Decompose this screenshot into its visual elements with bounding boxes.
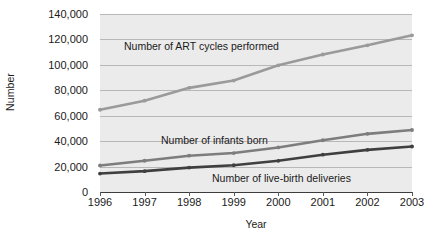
- y-axis-tick-label: 100,000: [48, 59, 88, 71]
- data-point: [276, 146, 280, 150]
- data-point: [410, 145, 414, 149]
- data-point: [143, 99, 147, 103]
- data-point: [98, 172, 102, 176]
- series-annotation-infants-born: Number of infants born: [161, 134, 268, 146]
- x-axis-tick-labels: 19961997199819992000200120022003: [100, 196, 412, 216]
- x-axis-tick-label: 2002: [355, 196, 379, 208]
- x-axis-tick-label: 2003: [400, 196, 424, 208]
- x-axis-tick-label: 2000: [266, 196, 290, 208]
- line-chart: 020,00040,00060,00080,000100,000120,0001…: [0, 0, 424, 240]
- data-point: [366, 132, 370, 136]
- data-point: [321, 138, 325, 142]
- data-point: [187, 166, 191, 170]
- data-point: [410, 33, 414, 37]
- y-axis-tick-label: 40,000: [54, 135, 88, 147]
- x-axis-title: Year: [100, 218, 412, 230]
- y-axis-tick-label: 120,000: [48, 33, 88, 45]
- data-point: [143, 169, 147, 173]
- data-point: [143, 159, 147, 163]
- y-axis-tick-label: 140,000: [48, 8, 88, 20]
- data-point: [321, 153, 325, 157]
- y-axis-tick-label: 20,000: [54, 161, 88, 173]
- data-point: [232, 163, 236, 167]
- x-axis-tick-label: 2001: [311, 196, 335, 208]
- y-axis-tick-label: 60,000: [54, 110, 88, 122]
- data-point: [232, 79, 236, 83]
- data-point: [98, 164, 102, 168]
- x-axis-tick-label: 1996: [88, 196, 112, 208]
- data-point: [232, 151, 236, 155]
- data-point: [187, 86, 191, 90]
- data-point: [321, 53, 325, 57]
- series-annotation-live-birth-deliveries: Number of live-birth deliveries: [212, 172, 351, 184]
- series-annotation-art-cycles: Number of ART cycles performed: [124, 40, 279, 52]
- y-axis-tick-label: 80,000: [54, 84, 88, 96]
- data-point: [366, 148, 370, 152]
- x-axis-tick-label: 1997: [132, 196, 156, 208]
- data-point: [98, 108, 102, 112]
- data-point: [410, 128, 414, 132]
- x-axis-tick-label: 1999: [221, 196, 245, 208]
- data-point: [276, 159, 280, 163]
- data-point: [366, 43, 370, 47]
- x-axis-tick-label: 1998: [177, 196, 201, 208]
- y-axis-title: Number: [4, 62, 16, 122]
- data-point: [276, 63, 280, 67]
- data-point: [187, 154, 191, 158]
